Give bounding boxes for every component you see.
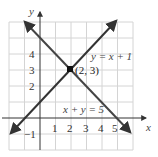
x-tick-2: 2 (67, 122, 73, 134)
equation-label-y-equals-x-plus-1: y = x + 1 (90, 50, 132, 62)
x-tick-4: 4 (98, 122, 104, 134)
equation-label-x-plus-y-equals-5: x + y = 5 (62, 103, 105, 115)
y-tick-4: 4 (29, 48, 35, 60)
x-tick-5: 5 (112, 122, 118, 134)
x-tick-3: 3 (83, 122, 89, 134)
intersection-point-marker (67, 66, 73, 72)
y-tick-2: 2 (29, 80, 35, 92)
coordinate-plane: x y (2, 3) y = x + 1 x + y = 5 1 2 3 4 5… (0, 0, 158, 157)
intersection-point-label: (2, 3) (75, 64, 99, 77)
y-axis-label: y (28, 5, 34, 17)
y-tick-3: 3 (29, 64, 35, 76)
x-tick-1: 1 (52, 122, 58, 134)
x-axis-label: x (145, 121, 151, 133)
y-tick-minus-1: −1 (24, 128, 36, 140)
